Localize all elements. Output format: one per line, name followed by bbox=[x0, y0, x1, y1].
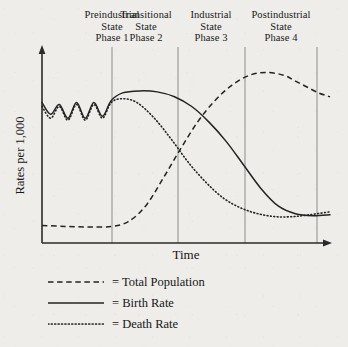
legend: = Total Population = Birth Rate = Death … bbox=[0, 272, 348, 335]
legend-label-birth-rate: = Birth Rate bbox=[112, 293, 174, 314]
x-axis-label: Time bbox=[42, 247, 330, 263]
phase-dividers bbox=[112, 47, 317, 243]
series-birth-rate-line bbox=[42, 91, 330, 216]
legend-text-birth-rate: Birth Rate bbox=[122, 296, 174, 310]
y-axis-label: Rates per 1,000 bbox=[13, 97, 28, 215]
legend-item-birth-rate: = Birth Rate bbox=[0, 293, 348, 314]
legend-swatch-dotted bbox=[48, 323, 104, 325]
legend-label-death-rate: = Death Rate bbox=[112, 314, 178, 335]
y-axis bbox=[39, 45, 46, 243]
legend-label-total-population: = Total Population bbox=[112, 272, 205, 293]
legend-prefix-birth-rate: = bbox=[112, 296, 119, 310]
legend-text-death-rate: Death Rate bbox=[122, 317, 178, 331]
legend-swatch-solid bbox=[48, 302, 104, 304]
legend-prefix-death-rate: = bbox=[112, 317, 119, 331]
legend-item-death-rate: = Death Rate bbox=[0, 314, 348, 335]
legend-text-total-population: Total Population bbox=[122, 275, 205, 289]
legend-swatch-dashed bbox=[48, 281, 104, 283]
x-axis bbox=[42, 240, 332, 247]
series-total-population-line bbox=[42, 72, 330, 227]
legend-item-total-population: = Total Population bbox=[0, 272, 348, 293]
legend-prefix-total-population: = bbox=[112, 275, 119, 289]
plot-area bbox=[0, 0, 348, 260]
series-death-rate-line bbox=[42, 99, 330, 217]
demographic-transition-figure: Preindustrial State Phase 1 Transitional… bbox=[0, 0, 348, 347]
